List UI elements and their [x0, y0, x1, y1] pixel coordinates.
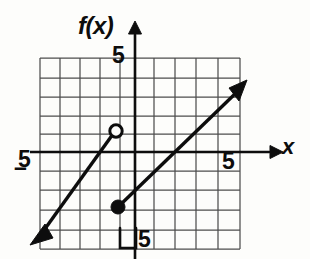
lower-branch-ray — [30, 125, 122, 245]
x-axis-label: x — [282, 136, 294, 158]
bottom-tick-cell — [120, 228, 136, 248]
x-axis-tick-positive-5: 5 — [222, 150, 235, 173]
closed-endpoint-marker — [111, 200, 125, 214]
y-axis-tick-negative-5: 5 — [138, 228, 151, 251]
y-axis-tick-5: 5 — [112, 44, 125, 67]
lower-branch-line — [42, 134, 113, 233]
open-endpoint-marker — [110, 125, 122, 137]
axes — [30, 21, 283, 259]
x-axis-tick-negative-5: 5 — [18, 148, 31, 171]
upper-branch-ray — [111, 80, 247, 214]
grid-lines — [40, 58, 240, 249]
coordinate-plane — [0, 0, 310, 259]
lower-branch-arrowhead — [30, 224, 53, 245]
y-axis-label: f(x) — [78, 14, 113, 38]
y-axis-arrowhead — [129, 21, 142, 34]
graph-figure: f(x) x 5 – 5 5 5 — [0, 0, 310, 259]
